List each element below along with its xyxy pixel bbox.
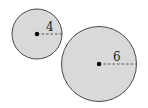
small-center-dot (35, 32, 39, 36)
two-circles-diagram: 4 6 (0, 0, 148, 108)
small-radius-label: 4 (46, 20, 54, 34)
large-circle-group: 6 (62, 27, 137, 102)
large-center-dot (97, 62, 101, 66)
large-radius-label: 6 (113, 50, 121, 64)
small-circle-group: 4 (12, 9, 62, 59)
